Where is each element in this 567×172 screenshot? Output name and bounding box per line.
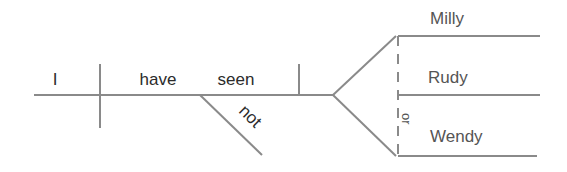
fork-upper-branch [333,36,396,95]
verb-word-1: have [140,70,177,89]
object-word-2: Rudy [428,68,468,87]
conjunction-word: or [399,113,414,125]
modifier-word: not [235,101,265,131]
object-word-1: Milly [430,9,464,28]
object-word-3: Wendy [430,127,483,146]
verb-word-2: seen [218,70,255,89]
subject-word: I [53,70,58,89]
fork-lower-branch [333,95,396,156]
sentence-diagram: I have seen not Milly Rudy Wendy or [0,0,567,172]
